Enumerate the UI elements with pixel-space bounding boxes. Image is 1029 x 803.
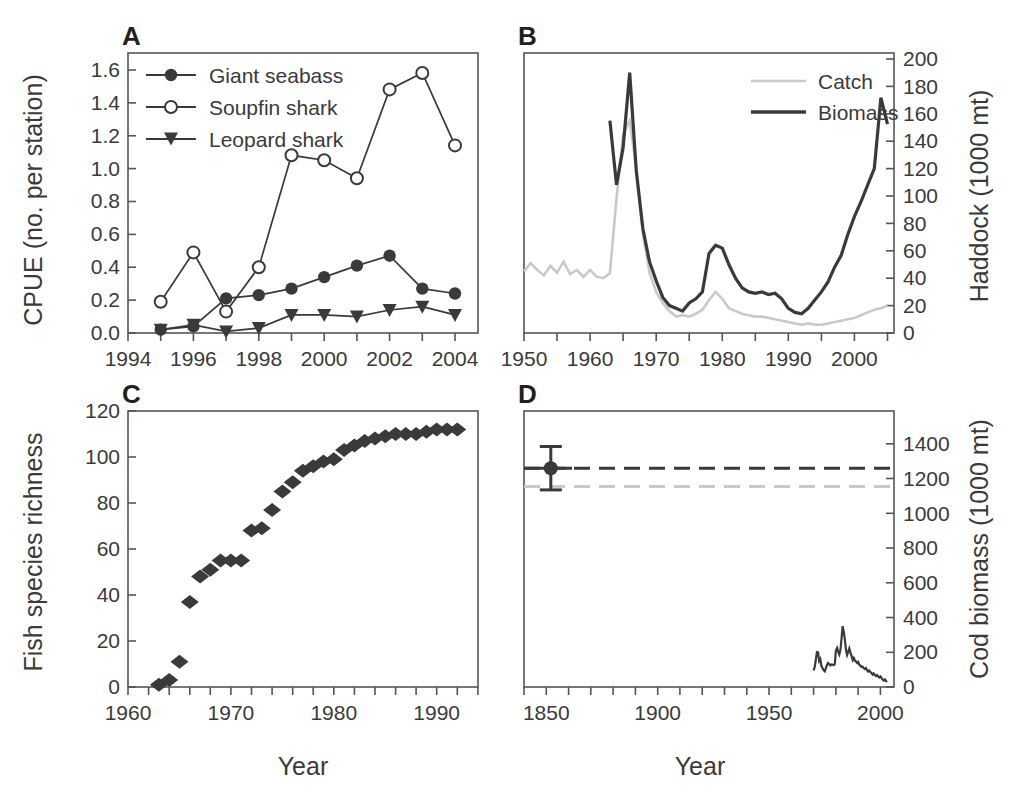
panel-d-xtick-1900: 1900 [634, 701, 681, 724]
panel-a-xtick-1996: 1996 [170, 347, 217, 370]
panel-c-xtick-1970: 1970 [208, 701, 255, 724]
panel-a-xtick-2000: 2000 [301, 347, 348, 370]
panel-a-ytick-0: 0.0 [91, 321, 120, 344]
panel-b-ytick-120: 120 [903, 157, 938, 180]
panel-a-ytick-2: 0.4 [91, 255, 121, 278]
panel-c-ytick-100: 100 [85, 445, 120, 468]
panel-b-xtick-2000: 2000 [831, 347, 878, 370]
panel-b-ytick-200: 200 [903, 47, 938, 70]
panel-c-y-axis-title: Fish species richness [19, 433, 47, 672]
panel-c-x-axis-title: Year [278, 752, 329, 780]
panel-d-y-axis-title: Cod biomass (1000 mt) [965, 419, 993, 679]
panel-c-ytick-20: 20 [97, 629, 120, 652]
panel-b-legend-label-biomass: Biomass [818, 101, 899, 124]
panel-b-ytick-0: 0 [903, 321, 915, 344]
panel-b-xtick-1970: 1970 [633, 347, 680, 370]
panel-a-ytick-3: 0.6 [91, 222, 120, 245]
panel-a-ytick-5: 1.0 [91, 157, 120, 180]
panel-b-xtick-1950: 1950 [501, 347, 548, 370]
panel-d-ytick-1400: 1400 [903, 432, 950, 455]
panel-a-ytick-8: 1.6 [91, 58, 120, 81]
panel-a-xtick-1998: 1998 [235, 347, 282, 370]
panel-b-ytick-40: 40 [903, 266, 926, 289]
panel-a-xtick-2002: 2002 [366, 347, 413, 370]
panel-b-ytick-100: 100 [903, 184, 938, 207]
panel-c-ytick-40: 40 [97, 583, 120, 606]
panel-c-xtick-1960: 1960 [105, 701, 152, 724]
panel-a-ytick-6: 1.2 [91, 124, 120, 147]
panel-b-legend-label-catch: Catch [818, 70, 873, 93]
panel-c-xtick-1980: 1980 [310, 701, 357, 724]
panel-a-letter: A [122, 21, 141, 51]
panel-a-ytick-7: 1.4 [91, 91, 121, 114]
open-circle-icon [165, 101, 177, 113]
panel-b-y-axis-title: Haddock (1000 mt) [965, 90, 993, 303]
panel-d-ytick-1000: 1000 [903, 502, 950, 525]
panel-d-ytick-0: 0 [903, 675, 915, 698]
panel-a-legend-label-giant-seabass: Giant seabass [209, 64, 343, 87]
panel-a-y-axis-title: CPUE (no. per station) [19, 74, 47, 326]
panel-b-xtick-1960: 1960 [567, 347, 614, 370]
panel-c-ytick-0: 0 [108, 675, 120, 698]
panel-d-ytick-600: 600 [903, 571, 938, 594]
panel-c-ytick-80: 80 [97, 491, 120, 514]
figure-root: A 0.0 0.2 0.4 0.6 0.8 1.0 1.2 1.4 [0, 0, 1029, 803]
panel-b-xtick-1990: 1990 [765, 347, 812, 370]
filled-circle-icon [165, 69, 177, 81]
panel-a-xtick-1994: 1994 [105, 347, 152, 370]
panel-d-ytick-1200: 1200 [903, 467, 950, 490]
panel-b-xtick-1980: 1980 [699, 347, 746, 370]
panel-a-xtick-2004: 2004 [432, 347, 479, 370]
panel-b-ytick-140: 140 [903, 129, 938, 152]
panel-b-ytick-60: 60 [903, 239, 926, 262]
panel-d-ytick-400: 400 [903, 606, 938, 629]
panel-d-ytick-200: 200 [903, 640, 938, 663]
panel-d-xtick-2000: 2000 [857, 701, 904, 724]
panel-c-letter: C [122, 379, 141, 409]
multi-panel-figure: A 0.0 0.2 0.4 0.6 0.8 1.0 1.2 1.4 [0, 0, 1029, 803]
panel-d-xtick-1950: 1950 [746, 701, 793, 724]
panel-a-legend-label-soupfin-shark: Soupfin shark [209, 96, 338, 119]
panel-b-letter: B [518, 21, 537, 51]
panel-a-legend-label-leopard-shark: Leopard shark [209, 128, 344, 151]
panel-d-estimate-point [544, 461, 558, 475]
panel-d-xtick-1850: 1850 [523, 701, 570, 724]
panel-b-ytick-160: 160 [903, 102, 938, 125]
panel-d-letter: D [518, 379, 537, 409]
panel-b-ytick-80: 80 [903, 212, 926, 235]
panel-a-ytick-4: 0.8 [91, 189, 120, 212]
panel-b-ytick-180: 180 [903, 75, 938, 98]
panel-b-ytick-20: 20 [903, 294, 926, 317]
panel-c-xtick-1990: 1990 [413, 701, 460, 724]
panel-d-ytick-800: 800 [903, 536, 938, 559]
panel-c-ytick-60: 60 [97, 537, 120, 560]
panel-d-x-axis-title: Year [675, 752, 726, 780]
panel-c-ytick-120: 120 [85, 399, 120, 422]
panel-a-ytick-1: 0.2 [91, 288, 120, 311]
